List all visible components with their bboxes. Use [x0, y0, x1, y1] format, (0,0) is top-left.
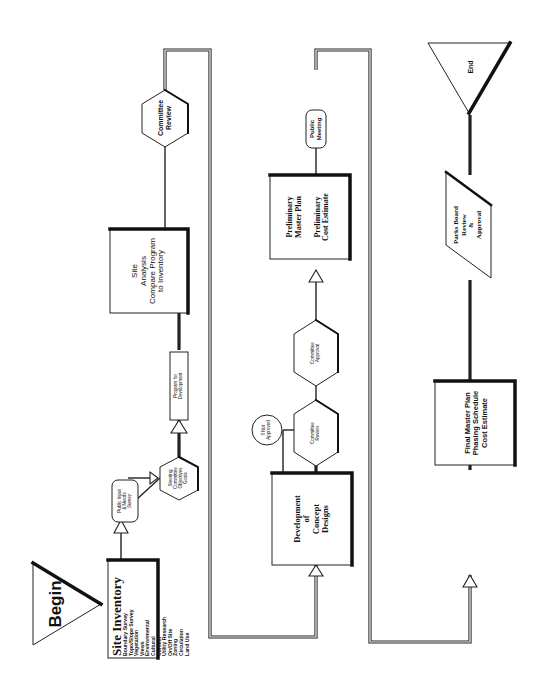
- public-meeting-label: Public Meeting: [309, 118, 322, 141]
- site-inventory-label: Site Inventory Boundary SurveyTopo/Slope…: [110, 560, 156, 656]
- site-analysis-label: Site Analysis Compare Program to Invento…: [131, 238, 166, 304]
- begin-triangle: [33, 563, 101, 645]
- parks-board-label: Parks Board Review & Approval: [453, 206, 484, 244]
- program-label: Program for Development: [174, 373, 184, 400]
- site-inventory-item: Land Use: [185, 560, 191, 656]
- concept-designs-label: Development of Concept Designs: [293, 495, 330, 543]
- public-input-label: Public Input & Needs Survey: [118, 489, 133, 513]
- steering-committee-label: Steering Committee Objectives Goals: [169, 467, 189, 489]
- begin-label: Begin: [47, 580, 66, 627]
- flowchart-canvas: [0, 0, 549, 688]
- if-not-approved-label: If Not Approved: [262, 420, 272, 439]
- end-label: End: [467, 60, 475, 73]
- committee-approval-label: Committee Approval: [311, 342, 321, 364]
- committee-review-2-label: Committee Review: [311, 422, 321, 444]
- arrowhead-to-preliminary: [309, 270, 323, 282]
- committee-review-1-label: Committee Review: [157, 100, 172, 136]
- preliminary-plan-label: Preliminary Master Plan Preliminary Cost…: [286, 193, 331, 241]
- site-inventory-items: Boundary SurveyTopo/Slope SurveyVegetati…: [123, 560, 190, 656]
- connector-input-to-steering: [136, 478, 160, 500]
- arrowhead-to-concept: [309, 565, 323, 576]
- final-plan-label: Final Master Plan Phasing Schedule Cost …: [464, 391, 489, 456]
- arrowhead-to-steering: [150, 472, 158, 484]
- arrowhead-to-final: [463, 575, 477, 587]
- end-triangle: [428, 43, 510, 113]
- arrowhead-to-program: [171, 420, 187, 433]
